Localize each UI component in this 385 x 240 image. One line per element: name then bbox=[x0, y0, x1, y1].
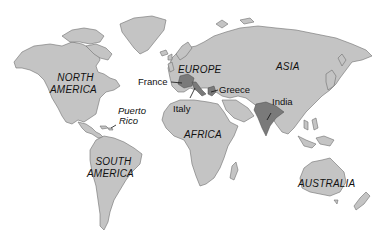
label-greece: Greece bbox=[219, 85, 250, 95]
label-africa: AFRICA bbox=[184, 130, 222, 140]
italy-leader-line bbox=[190, 88, 195, 98]
label-australia: AUSTRALIA bbox=[298, 179, 355, 189]
label-puerto-rico-line2: Rico bbox=[119, 116, 146, 126]
label-asia: ASIA bbox=[276, 62, 300, 72]
label-north-america: NORTH AMERICA bbox=[54, 73, 97, 95]
label-europe: EUROPE bbox=[178, 65, 221, 75]
label-north-america-line2: AMERICA bbox=[50, 85, 97, 95]
south-america-landmass bbox=[90, 136, 142, 230]
label-south-america-line2: AMERICA bbox=[87, 169, 134, 179]
puerto-rico-leader-line bbox=[111, 125, 116, 128]
label-italy: Italy bbox=[173, 104, 190, 114]
label-north-america-line1: NORTH bbox=[54, 73, 97, 83]
world-map bbox=[0, 0, 385, 240]
label-puerto-rico: Puerto Rico bbox=[118, 106, 146, 125]
label-south-america-line1: SOUTH bbox=[93, 157, 134, 167]
france-shape bbox=[178, 74, 194, 88]
label-france: France bbox=[138, 77, 168, 87]
label-south-america: SOUTH AMERICA bbox=[93, 157, 134, 179]
label-india: India bbox=[272, 97, 293, 107]
